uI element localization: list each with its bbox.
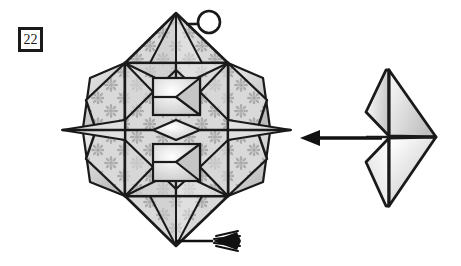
diagram-canvas: 22	[0, 0, 461, 266]
origami-diagram-svg	[0, 0, 461, 266]
chevron-panel-top-right	[389, 70, 436, 137]
folded-star-model	[62, 11, 291, 251]
chevron-panel-top-left	[366, 70, 389, 136]
folded-chevron-model	[366, 70, 436, 206]
chevron-panel-bottom-right	[389, 137, 436, 206]
chevron-panel-bottom-left	[366, 138, 389, 206]
